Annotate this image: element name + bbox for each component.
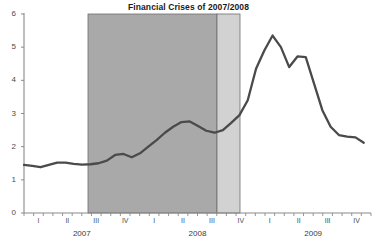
y-tick-label: 4 bbox=[2, 75, 16, 84]
y-tick-label: 0 bbox=[2, 208, 16, 217]
y-tick-label: 5 bbox=[2, 42, 16, 51]
x-axis-year-label: 2007 bbox=[62, 229, 102, 238]
x-axis-year-label: 2008 bbox=[178, 229, 218, 238]
x-tick-label: I bbox=[260, 217, 280, 225]
x-tick-label: II bbox=[173, 217, 193, 225]
x-tick-label: III bbox=[86, 217, 106, 225]
chart-plot-area bbox=[0, 0, 377, 246]
crisis-band-secondary bbox=[217, 14, 240, 213]
crisis-band-primary bbox=[88, 14, 217, 213]
y-tick-label: 6 bbox=[2, 9, 16, 18]
x-tick-label: II bbox=[289, 217, 309, 225]
x-tick-label: I bbox=[28, 217, 48, 225]
x-tick-label: IV bbox=[115, 217, 135, 225]
shaded-bands bbox=[88, 14, 240, 213]
x-tick-label: IV bbox=[347, 217, 367, 225]
chart-container: Financial Crises of 2007/2008 0123456 II… bbox=[0, 0, 377, 246]
x-axis-year-label: 2009 bbox=[293, 229, 333, 238]
x-tick-label: III bbox=[202, 217, 222, 225]
x-tick-label: I bbox=[144, 217, 164, 225]
y-tick-label: 3 bbox=[2, 109, 16, 118]
x-tick-label: II bbox=[57, 217, 77, 225]
x-tick-label: III bbox=[318, 217, 338, 225]
x-tick-label: IV bbox=[231, 217, 251, 225]
y-tick-label: 2 bbox=[2, 142, 16, 151]
y-tick-label: 1 bbox=[2, 175, 16, 184]
